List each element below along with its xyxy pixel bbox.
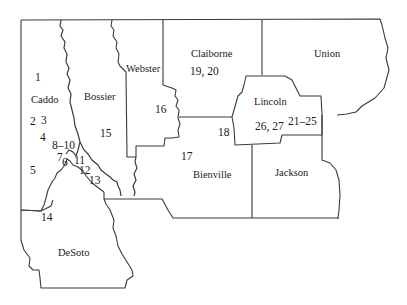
parish-label-caddo: Caddo <box>31 95 58 106</box>
location-label: 8–10 <box>52 140 75 152</box>
location-label: 26, 27 <box>255 121 284 133</box>
location-label: 13 <box>89 175 101 187</box>
location-label: 21–25 <box>288 116 317 128</box>
location-label: 3 <box>41 115 47 127</box>
parish-label-claiborne: Claiborne <box>191 49 232 60</box>
red-river <box>60 20 80 156</box>
parish-label-bienville: Bienville <box>193 170 232 181</box>
location-label: 16 <box>155 104 167 116</box>
bossier-webster-boundary <box>111 20 136 157</box>
location-label: 14 <box>41 212 53 224</box>
location-label: 4 <box>40 132 46 144</box>
parish-label-webster: Webster <box>126 64 160 75</box>
location-label: 5 <box>30 165 36 177</box>
parish-label-desoto: DeSoto <box>58 248 90 259</box>
location-label: 17 <box>181 151 193 163</box>
parish-label-bossier: Bossier <box>84 92 116 103</box>
desoto-boundary <box>21 192 133 288</box>
parish-label-union: Union <box>314 49 340 60</box>
parish-label-lincoln: Lincoln <box>254 97 287 108</box>
location-label: 15 <box>100 128 112 140</box>
webster-south-boundary <box>133 157 137 196</box>
webster-claiborne-boundary <box>136 20 180 157</box>
lincoln-boundary <box>232 76 322 145</box>
bienville-south-boundary <box>104 199 338 219</box>
location-label: 18 <box>218 127 230 139</box>
location-label: 6 <box>62 157 68 169</box>
parish-label-jackson: Jackson <box>275 168 308 179</box>
caddo-west-boundary <box>21 20 53 211</box>
location-label: 2 <box>30 116 36 128</box>
location-label: 19, 20 <box>190 66 219 78</box>
location-label: 1 <box>35 72 41 84</box>
